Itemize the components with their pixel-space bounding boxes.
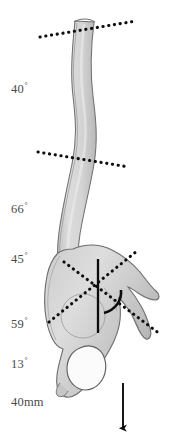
degree-symbol-icon: ° [24,316,27,325]
spine-column [58,19,97,272]
measurement-label-lumbar-lordosis: 66° [11,202,28,216]
degree-symbol-icon: ° [24,356,27,365]
measurement-label-sagittal-vertical-axis: 40mm [11,396,44,409]
measurement-label-pelvic-incidence: 59° [11,317,28,331]
measurement-value-lumbar-lordosis: 66 [11,202,24,216]
degree-symbol-icon: ° [24,201,27,210]
measurement-value-sacral-slope: 45 [11,252,24,266]
figure-root: 40° 66° 45° 59° 13° 40mm [0,0,174,446]
measurement-value-sagittal-vertical-axis: 40mm [11,395,44,409]
obturator-foramen [67,346,106,390]
measurement-label-sacral-slope: 45° [11,252,28,266]
anatomy-illustration [0,0,174,446]
degree-symbol-icon: ° [24,251,27,260]
measurement-label-pelvic-tilt: 13° [11,357,28,371]
measurement-value-pelvic-tilt: 13 [11,357,24,371]
measurement-value-pelvic-incidence: 59 [11,317,24,331]
measurement-label-thoracic-kyphosis: 40° [11,82,28,96]
degree-symbol-icon: ° [24,81,27,90]
measurement-value-thoracic-kyphosis: 40 [11,82,24,96]
